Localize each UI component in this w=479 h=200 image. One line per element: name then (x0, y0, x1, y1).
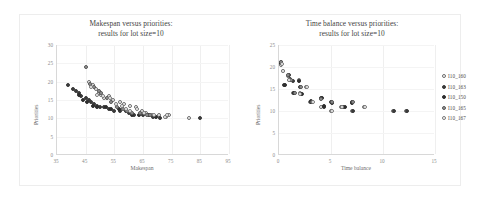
scatter-point (66, 83, 70, 87)
axis-title-y-right: Priorities (255, 104, 261, 125)
legend-marker-icon (442, 74, 446, 78)
chart-time-balance-vs-priorities: Time balance versus priorities: results … (242, 15, 462, 187)
scatter-point (283, 83, 287, 87)
y-axis-tick-label: 10 (42, 115, 53, 121)
legend-item-label: I10_160 (448, 73, 466, 79)
x-axis-tick-label: 55 (111, 158, 116, 164)
gridline-horizontal (279, 45, 434, 46)
scatter-point (297, 79, 301, 83)
legend-marker-icon (442, 85, 446, 89)
scatter-point (319, 97, 323, 101)
legend-marker-icon (442, 95, 446, 99)
scatter-point (405, 109, 409, 113)
x-axis-tick-label: 15 (431, 158, 436, 164)
scatter-point (120, 104, 124, 108)
gridline-horizontal (57, 63, 228, 64)
chart-title-left-line1: Makespan versus priorities: (20, 19, 242, 29)
scatter-point (85, 100, 89, 104)
y-axis-tick-label: 15 (42, 97, 53, 103)
x-axis-tick-label: 0 (277, 158, 280, 164)
y-axis-tick-label: 5 (42, 134, 53, 140)
scatter-point (363, 105, 367, 109)
chart-panel-frame: Makespan versus priorities: results for … (19, 14, 461, 186)
scatter-point (114, 102, 118, 106)
plot-area-left (56, 45, 228, 155)
scatter-point (293, 91, 297, 95)
scatter-point (351, 109, 355, 113)
scatter-point (340, 105, 344, 109)
scatter-point (281, 69, 285, 73)
chart-title-left: Makespan versus priorities: results for … (20, 19, 242, 38)
y-axis-tick-label: 15 (264, 86, 275, 92)
y-axis-tick-label: 5 (264, 130, 275, 136)
scatter-point (305, 85, 309, 89)
legend-item[interactable]: I10_167 (442, 113, 479, 124)
scatter-point (128, 104, 132, 108)
gridline-horizontal (279, 133, 434, 134)
scatter-point (77, 93, 81, 97)
scatter-point (158, 116, 162, 120)
y-axis-tick-label: 10 (264, 108, 275, 114)
scatter-point (112, 109, 116, 113)
scatter-point (95, 93, 99, 97)
legend-item-label: I10_167 (448, 115, 466, 121)
scatter-point (198, 116, 202, 120)
legend-item[interactable]: I10_160 (442, 71, 479, 82)
gridline-horizontal (57, 137, 228, 138)
y-axis-tick-label: 20 (42, 79, 53, 85)
scatter-point (330, 109, 334, 113)
scatter-point (109, 100, 113, 104)
chart-title-left-line2: results for lot size=10 (20, 29, 242, 39)
x-axis-tick-label: 85 (197, 158, 202, 164)
gridline-vertical (383, 45, 384, 154)
plot-area-right (278, 45, 434, 155)
y-axis-tick-label: 0 (42, 152, 53, 158)
gridline-horizontal (279, 89, 434, 90)
y-axis-tick-label: 25 (264, 42, 275, 48)
axis-title-x-right: Time balance (278, 165, 434, 171)
y-axis-tick-label: 30 (42, 42, 53, 48)
chart-legend: I10_160I10_163I10_150I10_165I10_167 (442, 71, 479, 124)
x-axis-tick-label: 65 (139, 158, 144, 164)
y-axis-tick-label: 0 (264, 152, 275, 158)
gridline-horizontal (279, 67, 434, 68)
chart-title-right-line1: Time balance versus priorities: (242, 19, 462, 29)
gridline-vertical (435, 45, 436, 154)
scatter-point (311, 100, 315, 104)
x-axis-tick-label: 10 (379, 158, 384, 164)
x-axis-tick-label: 75 (168, 158, 173, 164)
x-axis-tick-label: 95 (225, 158, 230, 164)
axis-title-y-left: Priorities (33, 104, 39, 125)
gridline-horizontal (279, 111, 434, 112)
legend-item-label: I10_165 (448, 105, 466, 111)
scatter-point (84, 65, 88, 69)
legend-item[interactable]: I10_150 (442, 92, 479, 103)
legend-marker-icon (442, 106, 446, 110)
x-axis-tick-label: 45 (82, 158, 87, 164)
chart-title-right-line2: results for lot size=10 (242, 29, 462, 39)
x-axis-tick-label: 5 (329, 158, 332, 164)
scatter-point (187, 116, 191, 120)
chart-makespan-vs-priorities: Makespan versus priorities: results for … (20, 15, 242, 187)
gridline-vertical (229, 45, 230, 154)
legend-item-label: I10_150 (448, 94, 466, 100)
x-axis-tick-label: 35 (53, 158, 58, 164)
legend-item[interactable]: I10_163 (442, 82, 479, 93)
legend-item-label: I10_163 (448, 84, 466, 90)
scatter-point (351, 100, 355, 104)
gridline-horizontal (57, 45, 228, 46)
axis-title-x-left: Makespan (56, 165, 228, 171)
chart-title-right: Time balance versus priorities: results … (242, 19, 462, 38)
scatter-point (280, 62, 284, 66)
scatter-point (392, 109, 396, 113)
legend-marker-icon (442, 116, 446, 120)
y-axis-tick-label: 25 (42, 60, 53, 66)
gridline-horizontal (57, 118, 228, 119)
y-axis-tick-label: 20 (264, 64, 275, 70)
gridline-horizontal (57, 82, 228, 83)
legend-item[interactable]: I10_165 (442, 103, 479, 114)
chart-figure: Makespan versus priorities: results for … (0, 0, 479, 200)
